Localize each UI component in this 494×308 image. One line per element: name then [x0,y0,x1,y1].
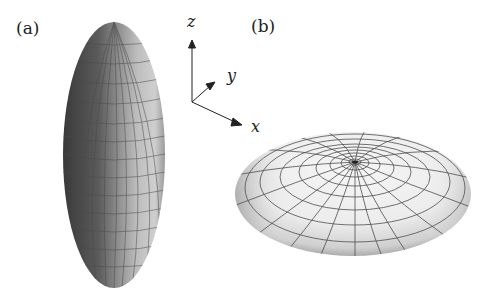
figure-canvas [0,0,494,308]
oblate-ellipsoid [235,128,471,262]
z-axis-label: z [187,12,195,31]
y-axis-label: y [227,66,236,85]
x-axis [192,102,235,122]
z-arrow-icon [189,40,196,48]
x-axis-label: x [251,117,260,136]
panel-b-label: (b) [251,16,275,36]
prolate-ellipsoid [63,22,165,288]
panel-a-label: (a) [16,18,39,38]
y-axis [192,86,210,102]
x-arrow-icon [231,118,242,126]
